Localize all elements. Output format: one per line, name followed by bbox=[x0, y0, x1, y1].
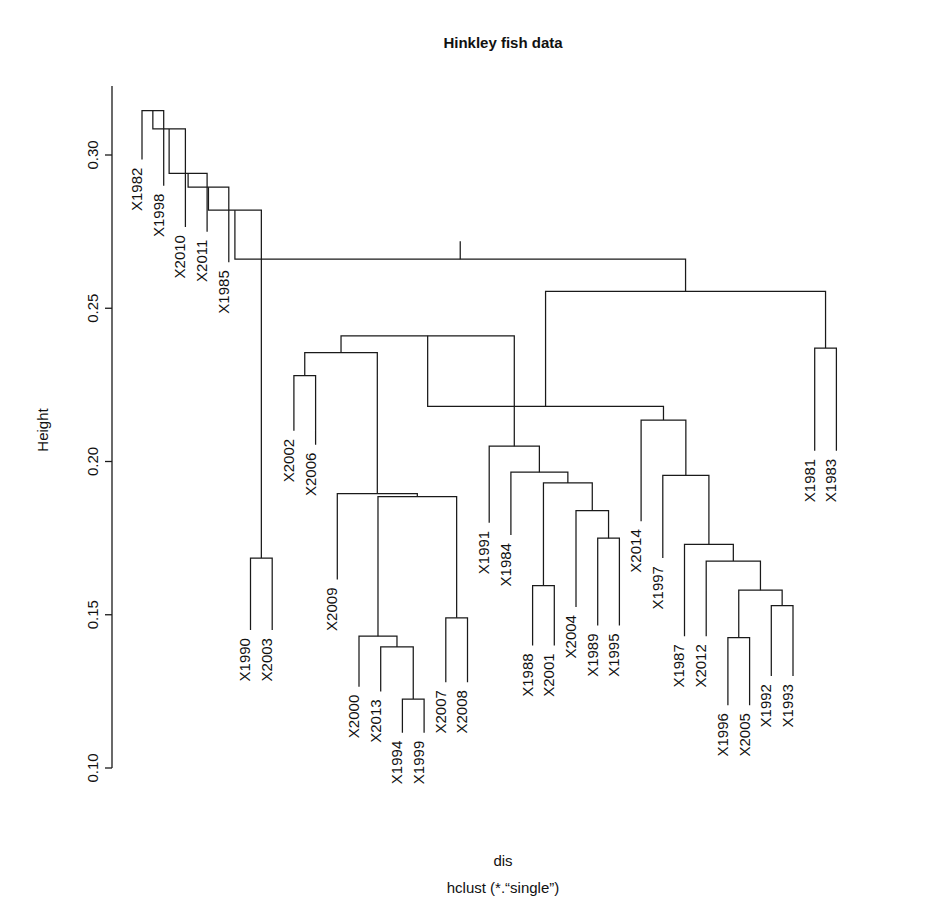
dendrogram-link bbox=[378, 497, 457, 636]
leaf-label-x2002: X2002 bbox=[280, 439, 297, 482]
x-axis-label: dis bbox=[493, 852, 512, 869]
dendrogram-link bbox=[543, 483, 592, 586]
leaf-label-x1991: X1991 bbox=[475, 531, 492, 574]
dendrogram-link bbox=[598, 538, 620, 625]
dendrogram-link bbox=[815, 348, 837, 451]
y-axis-tick-label: 0.20 bbox=[84, 447, 101, 476]
dendrogram-link bbox=[337, 494, 417, 580]
plot-subtitle: hclust (*.“single”) bbox=[447, 879, 560, 896]
leaf-label-x1992: X1992 bbox=[757, 684, 774, 727]
y-axis-tick-label: 0.15 bbox=[84, 600, 101, 629]
dendrogram-link bbox=[359, 636, 397, 687]
y-axis-tick-label: 0.30 bbox=[84, 140, 101, 169]
dendrogram-link bbox=[663, 475, 709, 558]
leaf-label-x2006: X2006 bbox=[302, 453, 319, 496]
dendrogram-link bbox=[381, 647, 414, 699]
dendrogram-link bbox=[489, 446, 539, 523]
leaf-label-x1990: X1990 bbox=[237, 638, 254, 681]
leaf-label-x1995: X1995 bbox=[605, 633, 622, 676]
leaf-label-x2008: X2008 bbox=[454, 690, 471, 733]
leaf-label-x1997: X1997 bbox=[649, 566, 666, 609]
y-axis-tick-label: 0.25 bbox=[84, 294, 101, 323]
leaf-label-x1982: X1982 bbox=[128, 168, 145, 211]
leaf-label-x1981: X1981 bbox=[801, 459, 818, 502]
dendrogram-link bbox=[546, 291, 826, 406]
dendrogram-link bbox=[771, 606, 793, 676]
leaf-label-x1998: X1998 bbox=[150, 194, 167, 237]
dendrogram-link bbox=[576, 511, 609, 608]
leaf-label-x1996: X1996 bbox=[714, 713, 731, 756]
leaf-label-x2014: X2014 bbox=[627, 529, 644, 572]
leaf-label-x2001: X2001 bbox=[540, 653, 557, 696]
dendrogram-link bbox=[533, 586, 555, 646]
leaf-label-x2003: X2003 bbox=[258, 638, 275, 681]
dendrogram-link bbox=[294, 376, 316, 445]
dendrogram-link bbox=[251, 558, 273, 630]
dendrogram-link bbox=[728, 638, 750, 705]
leaf-label-x2007: X2007 bbox=[432, 690, 449, 733]
leaf-label-x1993: X1993 bbox=[779, 684, 796, 727]
leaf-label-x1999: X1999 bbox=[410, 741, 427, 784]
leaf-labels: X1982X1998X2010X2011X1985X1990X2003X2002… bbox=[128, 168, 839, 785]
dendrogram-link bbox=[685, 544, 734, 636]
dendrogram-link bbox=[641, 420, 686, 521]
leaf-label-x2013: X2013 bbox=[367, 699, 384, 742]
leaf-label-x1994: X1994 bbox=[388, 741, 405, 784]
leaf-label-x2004: X2004 bbox=[562, 615, 579, 658]
dendrogram-link bbox=[706, 561, 760, 636]
dendrogram-plot: Hinkley fish data Height 0.100.150.200.2… bbox=[0, 0, 947, 924]
dendrogram-link bbox=[446, 618, 468, 682]
page-title: Hinkley fish data bbox=[443, 34, 563, 51]
leaf-label-x1983: X1983 bbox=[822, 459, 839, 502]
leaf-label-x2005: X2005 bbox=[736, 713, 753, 756]
figure-canvas: Hinkley fish data Height 0.100.150.200.2… bbox=[0, 0, 947, 924]
y-axis-label: Height bbox=[34, 407, 51, 451]
leaf-label-x1987: X1987 bbox=[671, 644, 688, 687]
leaf-label-x2011: X2011 bbox=[193, 240, 210, 282]
leaf-label-x1984: X1984 bbox=[497, 543, 514, 586]
dendrogram-link bbox=[739, 590, 782, 638]
leaf-label-x2000: X2000 bbox=[345, 695, 362, 738]
dendrogram-link bbox=[511, 472, 568, 535]
leaf-label-x2010: X2010 bbox=[171, 235, 188, 278]
leaf-label-x1988: X1988 bbox=[519, 653, 536, 696]
leaf-label-x1989: X1989 bbox=[584, 633, 601, 676]
y-axis: 0.100.150.200.250.30 bbox=[84, 86, 112, 783]
y-axis-tick-label: 0.10 bbox=[84, 753, 101, 782]
leaf-label-x2009: X2009 bbox=[323, 588, 340, 631]
leaf-label-x1985: X1985 bbox=[215, 270, 232, 313]
dendrogram-link bbox=[402, 699, 424, 733]
leaf-label-x2012: X2012 bbox=[692, 644, 709, 687]
